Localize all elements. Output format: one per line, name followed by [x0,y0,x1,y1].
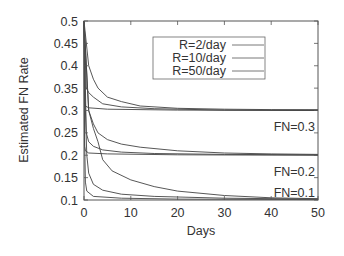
line-chart: 0.10.150.20.250.30.350.40.450.5 01020304… [0,0,344,256]
x-tick-label: 20 [171,206,185,220]
y-tick-label: 0.3 [61,104,78,118]
y-tick-label: 0.4 [61,59,78,73]
y-tick-label: 0.2 [61,149,78,163]
x-tick-label: 10 [124,206,138,220]
x-axis-label: Days [187,224,215,238]
y-tick-label: 0.5 [61,15,78,29]
legend: R=2/day R=10/day R=50/day [153,37,265,79]
y-axis-label: Estimated FN Rate [17,57,31,163]
legend-label-r10: R=10/day [172,51,227,65]
annotation-fn-0-3: FN=0.3 [274,120,315,134]
x-tick-label: 0 [81,206,88,220]
x-tick-label: 40 [264,206,278,220]
y-tick-label: 0.45 [54,37,78,51]
y-tick-label: 0.15 [54,171,78,185]
y-tick-label: 0.25 [54,126,78,140]
legend-label-r2: R=2/day [179,38,227,52]
y-tick-label: 0.35 [54,82,78,96]
x-tick-label: 30 [217,206,231,220]
legend-label-r50: R=50/day [172,64,227,78]
x-tick-label: 50 [311,206,325,220]
y-tick-label: 0.1 [61,194,78,208]
annotation-fn-0-1: FN=0.1 [274,186,315,200]
annotation-fn-0-2: FN=0.2 [274,165,315,179]
